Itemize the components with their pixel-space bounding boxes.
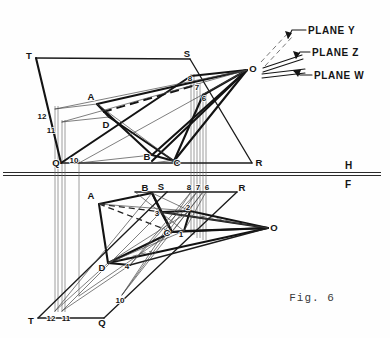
top-label-7: 7 [195,83,200,92]
descriptive-geometry-figure: T S Q R O A B C D 12 11 10 8 7 6 [0,0,390,338]
top-label-6: 6 [202,94,207,103]
front-label-6: 6 [205,183,210,192]
top-edge-Q-8 [61,76,191,163]
front-view-group: T S Q R O A B C D 12 11 10 8 7 6 3 2 1 4 [28,181,278,328]
front-label-S: S [158,181,164,192]
top-label-8: 8 [188,74,193,83]
front-label-4: 4 [125,262,130,271]
front-constr-D-1 [108,231,184,263]
top-label-S: S [184,48,190,59]
front-label-T: T [28,315,34,326]
top-label-A: A [88,91,95,102]
top-view-group: T S Q R O A B C D 12 11 10 8 7 6 [26,48,262,168]
front-label-2: 2 [186,203,191,212]
hf-reference-line-group [3,173,381,176]
top-label-O: O [249,63,256,74]
front-edge-DC [108,232,172,263]
top-label-D: D [103,119,110,130]
top-edge-TQ [36,58,61,163]
top-edge-C-6 [174,95,203,161]
front-label-1: 1 [179,230,184,239]
top-label-11: 11 [47,126,56,135]
projector-lines-group [55,74,206,312]
front-constr-12-B [55,193,152,311]
top-label-Q: Q [52,157,59,168]
front-label-D: D [99,262,106,273]
front-label-O: O [270,222,277,233]
plane-w-label: PLANE W [314,70,364,81]
front-label-10: 10 [116,296,125,305]
plane-y-label: PLANE Y [308,25,355,36]
front-label-B: B [142,182,149,193]
front-label-8: 8 [187,183,192,192]
drawing-sheet: T S Q R O A B C D 12 11 10 8 7 6 [0,0,390,338]
front-label-7: 7 [196,183,201,192]
top-edge-TS [36,58,190,59]
front-label-C: C [164,227,171,238]
top-label-12: 12 [38,112,47,121]
plane-y-trace-2 [265,36,293,66]
figure-caption: Fig. 6 [289,292,335,304]
front-label-Q: Q [98,317,105,328]
reference-label-H: H [345,160,352,171]
front-constr-10a-8 [122,192,191,295]
plane-callouts-group: PLANE Y PLANE Z PLANE W [261,25,364,81]
reference-label-F: F [345,179,351,190]
top-label-T: T [26,50,32,61]
top-label-B: B [144,151,151,162]
front-label-3: 3 [155,209,160,218]
top-constr-10-B [79,155,152,163]
front-ray-O-D [108,228,268,263]
top-label-10: 10 [70,156,79,165]
front-label-R: R [239,182,246,193]
plane-z-label: PLANE Z [312,47,359,58]
front-label-12: 12 [47,314,56,323]
front-label-11: 11 [62,314,71,323]
front-label-A: A [88,190,95,201]
front-constr-4-8 [130,192,191,265]
top-label-R: R [256,157,263,168]
top-label-C: C [174,157,181,168]
plane-y-trace-1 [261,32,289,62]
